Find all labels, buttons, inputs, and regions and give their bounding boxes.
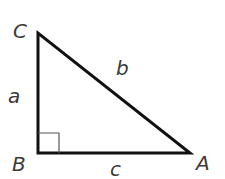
vertex-label-c: C: [13, 19, 27, 43]
side-label-c: c: [110, 157, 121, 179]
triangle-shape: [38, 33, 190, 153]
triangle-diagram: C B A a b c: [0, 0, 225, 179]
side-label-a: a: [8, 84, 20, 108]
vertex-label-b: B: [12, 152, 26, 176]
side-label-b: b: [116, 56, 129, 80]
right-angle-marker: [38, 133, 59, 153]
vertex-label-a: A: [194, 151, 210, 175]
